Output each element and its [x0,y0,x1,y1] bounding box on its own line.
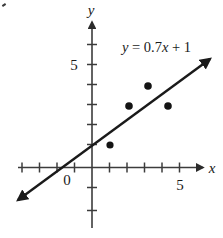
x-axis-title: x [208,160,216,176]
y-axis [87,22,97,228]
x-tick-label-5: 5 [176,177,184,193]
x-axis [18,163,203,173]
equation-eq: = 0.7 [128,39,162,55]
y-axis-title: y [86,2,95,18]
figure-container: 0 5 5 x y y = 0.7x + 1 [0,0,223,238]
data-point [106,141,113,148]
y-tick-label-5: 5 [70,57,78,73]
origin-label: 0 [63,172,71,188]
data-points [106,82,171,148]
equation-rhs: + 1 [168,39,191,55]
data-point [164,102,172,110]
equation-annotation: y = 0.7x + 1 [120,39,191,55]
data-point [125,102,133,110]
data-point [144,82,152,90]
scatter-plot-figure: 0 5 5 x y y = 0.7x + 1 [0,0,223,238]
